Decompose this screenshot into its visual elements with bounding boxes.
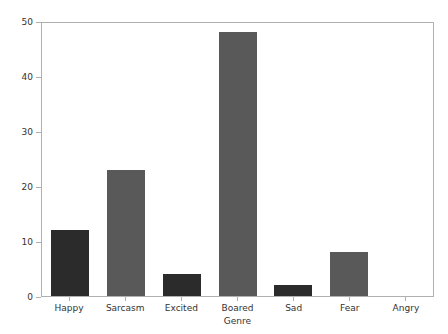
y-tick-label: 10: [0, 237, 33, 247]
y-tick-label: 30: [0, 127, 33, 137]
x-tick-mark: [125, 297, 126, 301]
y-tick-label: 20: [0, 182, 33, 192]
bar[interactable]: [51, 230, 89, 296]
x-tick: Angry: [378, 297, 434, 333]
bar-slot: [154, 23, 210, 296]
bar-chart-figure: 01020304050 HappySarcasmExcitedBoaredSad…: [0, 0, 448, 334]
bar-slot: [98, 23, 154, 296]
x-tick: Happy: [41, 297, 97, 333]
y-tick-mark: [36, 242, 41, 243]
x-tick-label: Angry: [393, 303, 420, 313]
bar-slot: [265, 23, 321, 296]
bars-group: [42, 23, 433, 296]
y-tick-label: 50: [0, 17, 33, 27]
x-tick-label: Boared: [222, 303, 254, 313]
y-tick-mark: [36, 132, 41, 133]
y-tick-mark: [36, 22, 41, 23]
x-tick-label: Fear: [340, 303, 359, 313]
y-tick-mark: [36, 77, 41, 78]
x-tick-mark: [405, 297, 406, 301]
bar-slot: [210, 23, 266, 296]
x-tick-mark: [293, 297, 294, 301]
bar-slot: [377, 23, 433, 296]
x-tick-mark: [181, 297, 182, 301]
x-tick-mark: [237, 297, 238, 301]
x-axis-ticks: HappySarcasmExcitedBoaredSadFearAngry: [41, 297, 434, 333]
x-tick: Excited: [153, 297, 209, 333]
x-tick-label: Happy: [55, 303, 84, 313]
y-tick-label: 40: [0, 72, 33, 82]
x-axis-title: Genre: [41, 316, 434, 326]
bar[interactable]: [107, 170, 145, 297]
y-tick-label: 0: [0, 292, 33, 302]
bar-slot: [321, 23, 377, 296]
y-tick-mark: [36, 187, 41, 188]
x-tick: Sarcasm: [97, 297, 153, 333]
x-tick-label: Sad: [285, 303, 302, 313]
bar[interactable]: [274, 285, 312, 296]
x-tick: Fear: [322, 297, 378, 333]
plot-area: [41, 22, 434, 297]
x-tick: Sad: [266, 297, 322, 333]
x-tick: Boared: [209, 297, 265, 333]
x-tick-label: Sarcasm: [106, 303, 145, 313]
bar-slot: [42, 23, 98, 296]
bar[interactable]: [330, 252, 368, 296]
x-tick-mark: [69, 297, 70, 301]
bar[interactable]: [163, 274, 201, 296]
x-tick-label: Excited: [165, 303, 198, 313]
x-tick-mark: [349, 297, 350, 301]
bar[interactable]: [219, 32, 257, 296]
